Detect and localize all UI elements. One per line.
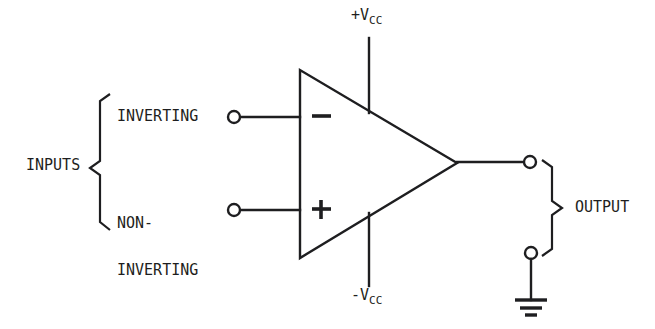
noninverting-input-terminal[interactable] xyxy=(228,204,240,216)
opamp-diagram-canvas: INPUTS INVERTING NON- INVERTING OUTPUT +… xyxy=(0,0,655,329)
output-grouping-brace xyxy=(542,160,562,256)
positive-supply-label: +VCC xyxy=(351,8,382,24)
output-label: OUTPUT xyxy=(575,200,629,216)
inverting-input-label: INVERTING xyxy=(117,109,198,125)
inputs-grouping-brace xyxy=(90,94,110,230)
negative-supply-label: -VCC xyxy=(351,288,382,304)
ground-symbol-icon xyxy=(515,259,547,315)
inverting-input-terminal[interactable] xyxy=(228,111,240,123)
noninverting-input-label-line2: INVERTING xyxy=(117,263,198,279)
noninverting-input-label-line1: NON- xyxy=(117,216,198,232)
opamp-schematic xyxy=(0,0,655,329)
opamp-triangle-body xyxy=(300,70,457,258)
output-terminal[interactable] xyxy=(524,156,536,168)
inputs-label: INPUTS xyxy=(26,158,80,174)
noninverting-input-label: NON- INVERTING xyxy=(117,184,198,310)
negative-supply-label-main: -V xyxy=(351,286,369,304)
positive-supply-label-main: +V xyxy=(351,6,369,24)
negative-supply-label-subscript: CC xyxy=(369,294,382,307)
plus-sign-icon xyxy=(312,200,331,219)
ground-terminal[interactable] xyxy=(525,247,537,259)
positive-supply-label-subscript: CC xyxy=(369,14,382,27)
